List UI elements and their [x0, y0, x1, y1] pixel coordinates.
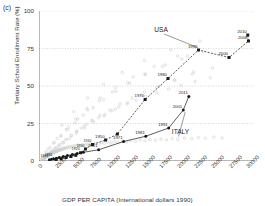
scatter-point	[61, 124, 64, 127]
y-tick-label: 50	[12, 82, 34, 89]
scatter-point	[110, 142, 113, 145]
scatter-plot-svg: 1920193019401950197019801990200020082010…	[39, 11, 254, 161]
scatter-point	[84, 127, 87, 130]
scatter-point	[68, 137, 71, 140]
series-point-italy	[122, 140, 125, 143]
series-point-italy	[97, 148, 100, 151]
scatter-point	[92, 107, 95, 110]
year-label: 1971	[113, 135, 123, 140]
scatter-point	[86, 97, 89, 100]
scatter-point	[211, 67, 214, 70]
series-point-usa	[104, 139, 107, 142]
scatter-point	[192, 71, 195, 74]
scatter-point	[114, 108, 117, 111]
scatter-point	[154, 139, 157, 142]
year-label: 1961	[88, 143, 98, 148]
scatter-point	[102, 98, 105, 101]
series-point-usa	[246, 34, 249, 37]
scatter-point	[118, 106, 121, 109]
scatter-point	[103, 142, 106, 145]
series-point-usa	[247, 40, 250, 43]
scatter-point	[171, 137, 174, 140]
series-point-italy	[66, 154, 69, 157]
scatter-point	[213, 136, 216, 139]
series-point-usa	[197, 49, 200, 52]
scatter-point	[98, 100, 101, 103]
x-tick-label: 0	[37, 163, 43, 169]
scatter-point	[80, 127, 83, 130]
scatter-point	[181, 58, 184, 61]
series-point-italy	[187, 95, 190, 98]
scatter-point	[160, 138, 163, 141]
plot-area: 1920193019401950197019801990200020082010…	[39, 11, 254, 161]
y-tick-label: 25	[12, 120, 34, 127]
scatter-point	[99, 97, 102, 100]
scatter-point	[86, 123, 89, 126]
scatter-point	[74, 122, 77, 125]
scatter-point	[176, 55, 179, 58]
series-point-usa	[228, 56, 231, 59]
scatter-point	[170, 49, 173, 52]
year-label: 1980	[157, 72, 167, 77]
scatter-point	[197, 136, 200, 139]
chart-figure: (c) Tertiary School Enrollment Rate (%) …	[0, 0, 265, 206]
scatter-point	[149, 138, 152, 141]
year-label: 1981	[135, 130, 145, 135]
scatter-point	[180, 84, 183, 87]
scatter-point	[153, 65, 156, 68]
scatter-point	[121, 71, 124, 74]
x-axis-label: GDP PER CAPITA (International dollars 19…	[62, 196, 193, 203]
year-label: 1950	[95, 134, 105, 139]
series-point-italy	[76, 152, 79, 155]
year-label: 2001	[173, 104, 183, 109]
year-label: 1991	[158, 122, 168, 127]
italy-annotation: ITALY	[172, 128, 190, 135]
scatter-point	[221, 137, 224, 140]
scatter-point	[204, 137, 207, 140]
series-point-italy	[55, 157, 58, 160]
scatter-point	[132, 76, 135, 79]
scatter-point	[135, 99, 138, 102]
year-label: 1970	[135, 93, 145, 98]
y-tick-label: 75	[12, 45, 34, 52]
scatter-point	[209, 77, 212, 80]
scatter-point	[131, 97, 134, 100]
scatter-point	[190, 138, 193, 141]
scatter-point	[164, 64, 167, 67]
series-point-usa	[144, 98, 147, 101]
scatter-point	[167, 88, 170, 91]
scatter-point	[145, 95, 148, 98]
scatter-point	[186, 55, 189, 58]
scatter-point	[72, 110, 75, 113]
year-label: 2000	[218, 51, 228, 56]
scatter-point	[111, 91, 114, 94]
scatter-point	[176, 138, 179, 141]
scatter-point	[114, 86, 117, 89]
scatter-point	[139, 139, 142, 142]
panel-label: (c)	[3, 4, 11, 11]
scatter-point	[143, 59, 146, 62]
year-label: 1920	[72, 147, 80, 151]
scatter-point	[56, 137, 59, 140]
scatter-point	[102, 83, 105, 86]
series-point-italy	[182, 109, 185, 112]
series-point-italy	[52, 157, 55, 160]
series-point-italy	[82, 151, 85, 154]
scatter-point	[99, 114, 102, 117]
year-label: 1881	[45, 153, 53, 157]
year-label: 1930	[77, 144, 85, 148]
scatter-point	[165, 139, 168, 142]
scatter-point	[199, 40, 202, 43]
scatter-point	[115, 90, 118, 93]
scatter-point	[82, 114, 85, 117]
usa-leader-line	[164, 34, 197, 48]
scatter-point	[47, 148, 50, 151]
y-tick-label: 100	[12, 7, 34, 14]
series-point-usa	[167, 77, 170, 80]
scatter-point	[194, 80, 197, 83]
y-axis-label: Tertiary School Enrollment Rate (%)	[13, 0, 20, 116]
series-point-usa	[84, 148, 87, 151]
scatter-point	[119, 103, 122, 106]
usa-annotation: USA	[154, 26, 168, 33]
year-label: 2010	[237, 29, 247, 34]
